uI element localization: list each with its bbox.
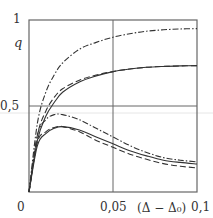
y-axis-label: q <box>14 36 22 49</box>
y-tick-0.5: 0,5 <box>0 100 19 112</box>
x-tick-0: 0 <box>17 201 25 213</box>
y-tick-1: 1 <box>13 13 21 25</box>
x-tick-0.05: 0,05 <box>100 201 127 213</box>
chart-plot-area <box>0 0 213 218</box>
x-axis-label: (Δ − Δ₀) <box>137 202 186 214</box>
x-tick-0.1: 0,1 <box>191 201 210 213</box>
